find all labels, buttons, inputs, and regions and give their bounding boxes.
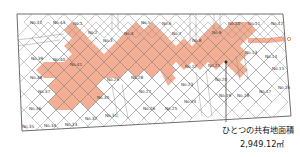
- plot-label-33: No.33: [65, 122, 77, 127]
- plot-label-11: No.11: [248, 21, 260, 26]
- plot-label-10: No.10: [228, 21, 240, 26]
- plot-label-8: No.8: [192, 38, 202, 43]
- plot-label-38: No.38: [30, 75, 42, 80]
- shared-land-annotation-value: 2,949.12㎡: [240, 139, 284, 149]
- land-subdivision-map: No.1 No.2 No.3 No.4 No.5 No.6 No.7 No.8 …: [0, 0, 300, 157]
- plot-label-14: No.14: [265, 54, 277, 59]
- plot-label-18: No.18: [237, 93, 249, 98]
- plot-label-7: No.7: [172, 31, 182, 36]
- plot-label-20: No.20: [215, 77, 227, 82]
- plot-label-16: No.16: [278, 85, 290, 90]
- plot-label-13: No.13: [245, 50, 257, 55]
- plot-label-21: No.21: [208, 63, 220, 68]
- plot-label-24: No.24: [184, 99, 196, 104]
- plot-label-34: No.34: [44, 123, 56, 128]
- plot-label-17: No.17: [259, 89, 271, 94]
- plot-label-4: No.4: [124, 31, 134, 36]
- plot-label-41: No.41: [70, 62, 82, 67]
- plot-label-26: No.26: [143, 106, 155, 111]
- shared-land-annotation-title: ひとつの共有地面積: [222, 125, 294, 135]
- plot-label-29: No.29: [107, 77, 119, 82]
- plot-label-1: No.1: [73, 21, 83, 26]
- plot-label-23: No.23: [181, 82, 193, 87]
- plot-label-19: No.19: [219, 93, 231, 98]
- plot-label-9: No.9: [212, 30, 222, 35]
- plot-label-2: No.2: [88, 30, 98, 35]
- plot-label-43: No.43: [53, 20, 65, 25]
- plot-label-15: No.15: [272, 66, 284, 71]
- plot-label-31: No.31: [105, 113, 117, 118]
- plot-label-12: No.12: [271, 21, 283, 26]
- plot-label-30: No.30: [97, 95, 109, 100]
- plot-label-39: No.39: [31, 56, 43, 61]
- plot-label-3: No.3: [103, 38, 113, 43]
- plot-label-5: No.5: [141, 20, 151, 25]
- plot-label-35: No.35: [22, 124, 34, 129]
- plot-label-6: No.6: [162, 21, 172, 26]
- plot-label-32: No.32: [85, 116, 97, 121]
- plot-label-22: No.22: [185, 64, 197, 69]
- plot-label-40: No.40: [53, 57, 65, 62]
- plot-label-25: No.25: [165, 106, 177, 111]
- plot-label-27: No.27: [139, 89, 151, 94]
- plot-label-28: No.28: [131, 75, 143, 80]
- plot-label-42: No.42: [30, 20, 42, 25]
- plot-label-37: No.37: [38, 89, 50, 94]
- plot-label-36: No.36: [29, 106, 41, 111]
